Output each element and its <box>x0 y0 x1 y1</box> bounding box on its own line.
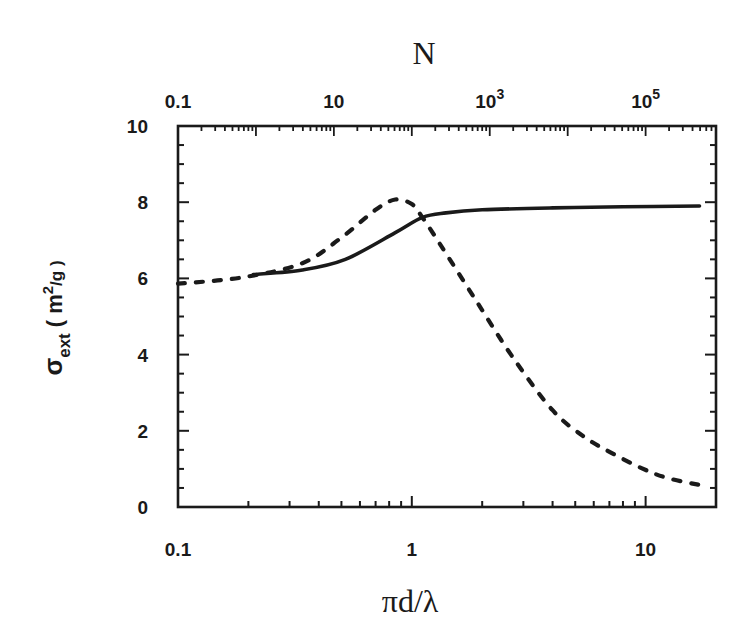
y-axis-subscript: ext <box>55 333 74 358</box>
chart-svg: 0.111002468100.110103105 N πd/λ σext( m2… <box>0 0 756 642</box>
y-axis-units-open: ( m <box>42 294 67 327</box>
y-axis-symbol: σ <box>38 358 68 376</box>
x-axis-ticks <box>178 496 716 507</box>
x-axis-title: πd/λ <box>382 583 439 619</box>
y-tick-label: 0 <box>137 497 148 518</box>
data-series <box>178 199 700 485</box>
y-axis-units-close: /g ) <box>47 260 66 286</box>
right-axis-ticks <box>705 126 716 507</box>
plot-border <box>178 126 716 507</box>
top-tick-label: 105 <box>631 86 660 112</box>
top-axis-ticks <box>178 126 716 136</box>
top-tick-label: 10 <box>323 91 344 112</box>
top-tick-label: 0.1 <box>165 91 192 112</box>
y-axis-units-sup: 2 <box>39 286 56 294</box>
y-tick-label: 10 <box>127 116 148 137</box>
svg-text:σext( m2/g ): σext( m2/g ) <box>38 260 74 375</box>
solid-curve <box>253 206 699 275</box>
x-tick-label: 0.1 <box>165 539 192 560</box>
tick-labels: 0.111002468100.110103105 <box>127 86 660 560</box>
dashed-curve <box>178 199 700 485</box>
y-axis-ticks <box>178 126 189 507</box>
top-tick-label: 103 <box>475 86 504 112</box>
plot-frame <box>178 126 716 507</box>
y-tick-label: 8 <box>137 192 148 213</box>
y-axis-title: σext( m2/g ) <box>38 260 74 375</box>
y-tick-label: 2 <box>137 421 148 442</box>
y-tick-label: 6 <box>137 268 148 289</box>
y-tick-label: 4 <box>137 345 148 366</box>
x-tick-label: 10 <box>635 539 656 560</box>
top-axis-title: N <box>412 35 435 71</box>
x-tick-label: 1 <box>407 539 418 560</box>
